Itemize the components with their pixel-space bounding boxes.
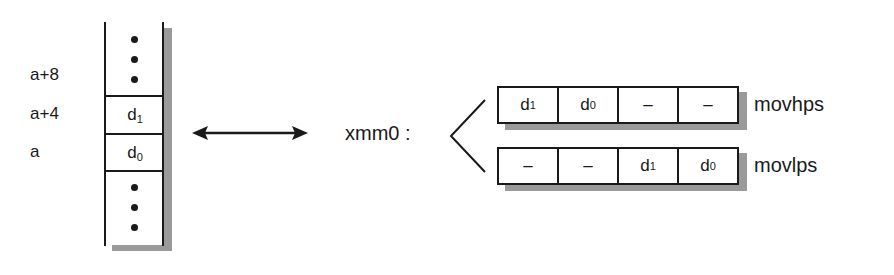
double-arrow-icon: [190, 123, 310, 143]
register-cell: –: [499, 149, 559, 183]
register-row-movhps: d1 d0 – –: [497, 86, 747, 130]
instruction-label-movlps: movlps: [754, 153, 817, 177]
register-cell: –: [559, 149, 619, 183]
memory-divider: [105, 133, 164, 135]
register-cell: –: [679, 88, 737, 122]
register-shadow: [505, 124, 747, 130]
instruction-label-movhps: movhps: [754, 92, 824, 116]
memory-cell-d0: d0: [107, 143, 163, 163]
memory-cell-d1: d1: [107, 105, 163, 125]
branch-bracket-icon: [448, 98, 488, 174]
register-cell: d1: [619, 149, 679, 183]
register-shadow: [739, 92, 747, 128]
memory-divider: [105, 95, 164, 97]
address-label-a-plus-4: a+4: [30, 104, 59, 124]
address-label-a: a: [30, 142, 39, 162]
register-cell: d0: [559, 88, 619, 122]
register-cell: –: [619, 88, 679, 122]
register-cell: d0: [679, 149, 737, 183]
memory-divider: [105, 170, 164, 172]
address-label-a-plus-8: a+8: [30, 65, 59, 85]
register-name: xmm0 :: [345, 121, 411, 145]
register-shadow: [739, 153, 747, 189]
register-box: – – d1 d0: [497, 147, 739, 185]
register-box: d1 d0 – –: [497, 86, 739, 124]
register-shadow: [505, 185, 747, 191]
memory-shadow-right: [164, 28, 172, 251]
register-cell: d1: [499, 88, 559, 122]
register-row-movlps: – – d1 d0: [497, 147, 747, 191]
